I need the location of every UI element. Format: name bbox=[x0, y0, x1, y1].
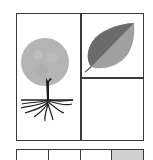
puzzle-illustrations bbox=[0, 0, 153, 160]
leaf-icon bbox=[85, 23, 134, 72]
answer-option-4[interactable] bbox=[112, 150, 143, 160]
tree-icon bbox=[21, 38, 73, 121]
answer-option-2[interactable] bbox=[49, 150, 81, 160]
answer-options-row bbox=[16, 149, 144, 160]
answer-option-1[interactable] bbox=[17, 150, 49, 160]
answer-option-3[interactable] bbox=[81, 150, 113, 160]
